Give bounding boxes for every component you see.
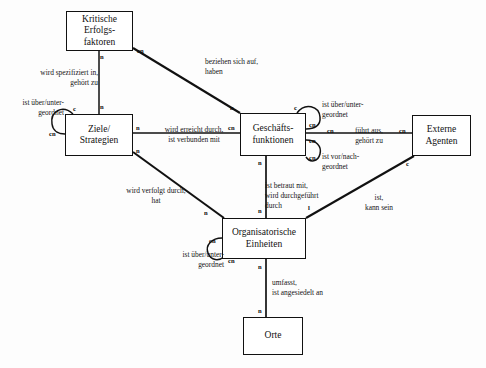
cardinality-marker: c (294, 104, 297, 111)
cardinality-marker: n (204, 209, 208, 216)
cardinality-marker: n (100, 103, 104, 110)
entity-label: Orte (263, 330, 284, 341)
entity-kritische-erfolgsfaktoren[interactable]: Kritische Erfolgs- faktoren (66, 11, 133, 51)
entity-orte[interactable]: Orte (243, 317, 303, 355)
entity-organisatorische-einheiten[interactable]: Organisatorische Einheiten (222, 218, 306, 259)
relationship-label-beziehen-sich-auf: beziehen sich auf, haben (205, 57, 291, 77)
entity-label: Externe Agenten (413, 124, 470, 146)
relationship-label-ist-kann-sein: ist, kann sein (356, 193, 402, 213)
relationship-label-wird-verfolgt-durch: wird verfolgt durch, hat (110, 186, 202, 206)
cardinality-marker: c (73, 105, 76, 112)
entity-label: Organisatorische Einheiten (223, 227, 305, 249)
cardinality-marker: cn (228, 124, 235, 131)
entity-externe-agenten[interactable]: Externe Agenten (412, 115, 471, 156)
cardinality-marker: cn (399, 127, 406, 134)
relationship-label-gf-ist-ueber-untergeordnet: ist über/unter- geordnet (322, 100, 384, 120)
cardinality-marker: n (100, 53, 104, 60)
cardinality-marker: n (258, 263, 262, 270)
cardinality-marker: n (136, 147, 140, 154)
relationship-label-ist-betraut-mit: ist betraut mit, wird durchgeführt durch (265, 181, 333, 210)
diagram-connectors (0, 0, 486, 368)
edge-ziele-oe (133, 152, 224, 218)
cardinality-marker: cn (327, 127, 334, 134)
relationship-label-fuehrt-aus: führt aus, gehört zu (340, 126, 398, 146)
cardinality-marker: n (258, 307, 262, 314)
entity-geschaeftsfunktionen[interactable]: Geschäfts- funktionen (240, 113, 306, 156)
relationship-label-oe-ist-ueber-untergeordnet: ist über/unter- geordnet (162, 250, 224, 270)
cardinality-marker: cn (309, 137, 316, 144)
cardinality-marker: cn (309, 154, 316, 161)
cardinality-marker: cn (309, 121, 316, 128)
cardinality-marker: n (258, 207, 262, 214)
entity-ziele-strategien[interactable]: Ziele/ Strategien (65, 114, 133, 156)
entity-label: Ziele/ Strategien (66, 124, 132, 146)
relationship-label-wird-spezifiziert-in: wird spezifiziert in, gehört zu (16, 68, 98, 88)
relationship-label-wird-erreicht-durch: wird erreicht durch, ist verbunden mit (148, 125, 240, 145)
er-diagram-canvas: Kritische Erfolgs- faktoren Ziele/ Strat… (0, 0, 486, 368)
entity-label: Kritische Erfolgs- faktoren (67, 14, 132, 48)
entity-label: Geschäfts- funktionen (241, 123, 305, 145)
cardinality-marker: cn (137, 47, 144, 54)
cardinality-marker: cn (228, 257, 235, 264)
cardinality-marker: cn (49, 130, 56, 137)
cardinality-marker: n (258, 159, 262, 166)
relationship-label-umfasst: umfasst, ist angesiedelt an (272, 278, 352, 298)
cardinality-marker: c (406, 160, 409, 167)
cardinality-marker: cn (209, 237, 216, 244)
cardinality-marker: l (308, 204, 310, 211)
cardinality-marker: n (136, 124, 140, 131)
relationship-label-ziele-ist-ueber-untergeordnet: ist über/unter- geordnet (2, 98, 64, 118)
cardinality-marker: n (230, 104, 234, 111)
relationship-label-ist-vor-nachgeordnet: ist vor/nach- geordnet (322, 152, 382, 172)
